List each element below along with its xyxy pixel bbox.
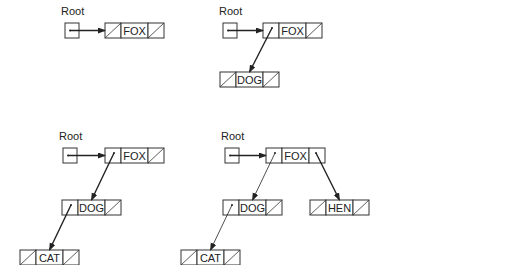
panel-1: RootFOX bbox=[61, 5, 164, 38]
tree-node-cat: CAT bbox=[20, 250, 79, 265]
root-label: Root bbox=[219, 5, 242, 17]
pointer-arrow-fox-dog bbox=[253, 153, 276, 200]
panel-2: RootFOXDOG bbox=[219, 5, 322, 87]
root-label: Root bbox=[59, 130, 82, 142]
root-label: Root bbox=[61, 5, 84, 17]
tree-node-hen: HEN bbox=[310, 200, 369, 215]
tree-node-dog: DOG bbox=[223, 200, 282, 215]
node-value: DOG bbox=[79, 202, 104, 214]
node-value: FOX bbox=[281, 25, 304, 37]
tree-node-fox: FOX bbox=[105, 148, 164, 163]
tree-node-cat: CAT bbox=[181, 250, 240, 265]
tree-node-dog: DOG bbox=[220, 72, 279, 87]
node-value: FOX bbox=[123, 150, 146, 162]
panel-3: RootFOXDOGCAT bbox=[20, 130, 164, 265]
pointer-arrow-fox-hen bbox=[316, 153, 340, 200]
panel-4: RootFOXDOGHENCAT bbox=[181, 130, 369, 265]
tree-node-fox: FOX bbox=[266, 148, 325, 163]
root-label: Root bbox=[221, 130, 244, 142]
node-value: CAT bbox=[39, 252, 60, 264]
node-value: CAT bbox=[200, 252, 221, 264]
node-value: FOX bbox=[123, 25, 146, 37]
node-value: DOG bbox=[240, 202, 265, 214]
node-value: FOX bbox=[284, 150, 307, 162]
pointer-arrow-fox-dog bbox=[92, 153, 115, 200]
pointer-arrow-dog-cat bbox=[211, 205, 233, 250]
tree-node-dog: DOG bbox=[62, 200, 121, 215]
pointer-arrow-dog-cat bbox=[50, 205, 72, 250]
tree-diagram-canvas: RootFOXRootFOXDOGRootFOXDOGCATRootFOXDOG… bbox=[0, 0, 507, 265]
tree-node-fox: FOX bbox=[263, 23, 322, 38]
pointer-arrow-fox-dog bbox=[250, 28, 273, 72]
tree-node-fox: FOX bbox=[105, 23, 164, 38]
node-value: DOG bbox=[237, 74, 262, 86]
node-value: HEN bbox=[328, 202, 351, 214]
